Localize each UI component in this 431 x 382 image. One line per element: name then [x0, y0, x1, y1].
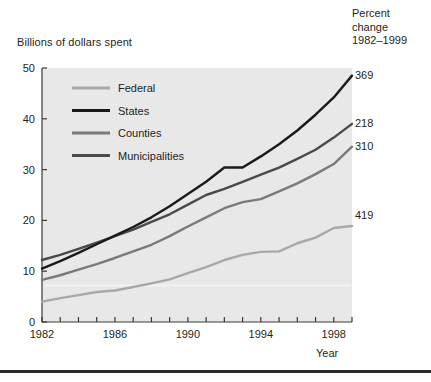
plot-background: [42, 68, 352, 322]
y-axis-title: Billions of dollars spent: [17, 36, 132, 48]
percent-change-header-line-3: 1982–1999: [352, 34, 407, 48]
percent-change-header: Percent change 1982–1999: [352, 7, 407, 48]
percent-change-value-municipalities: 218: [355, 117, 373, 129]
plot-area: 0102030405019821986199019941998FederalSt…: [0, 0, 431, 382]
percent-change-value-federal: 419: [355, 209, 373, 221]
legend-label-municipalities: Municipalities: [118, 150, 185, 162]
x-tick-label: 1998: [322, 328, 346, 340]
x-axis-title: Year: [316, 347, 338, 359]
x-tick-label: 1986: [103, 328, 127, 340]
x-tick-label: 1990: [176, 328, 200, 340]
y-tick-label: 20: [23, 214, 35, 226]
y-tick-label: 30: [23, 164, 35, 176]
legend-label-federal: Federal: [118, 82, 155, 94]
x-tick-label: 1994: [249, 328, 273, 340]
percent-change-value-counties: 310: [355, 140, 373, 152]
legend-label-counties: Counties: [118, 127, 162, 139]
footer-divider: [0, 370, 431, 373]
percent-change-value-states: 369: [355, 69, 373, 81]
percent-change-header-line-1: Percent: [352, 7, 407, 21]
y-tick-label: 40: [23, 113, 35, 125]
y-tick-label: 10: [23, 265, 35, 277]
y-tick-label: 50: [23, 62, 35, 74]
x-tick-label: 1982: [30, 328, 54, 340]
percent-change-header-line-2: change: [352, 21, 407, 35]
legend-label-states: States: [118, 105, 150, 117]
y-tick-label: 0: [29, 316, 35, 328]
chart-figure: Billions of dollars spent Percent change…: [0, 0, 431, 382]
